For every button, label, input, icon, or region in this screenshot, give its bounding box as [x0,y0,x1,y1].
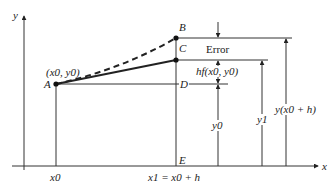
point-C [173,57,178,62]
step-label: hf(x0, y0) [196,66,238,77]
y1-label: y1 [257,114,267,125]
x1-tick-label: x1 = x0 + h [148,172,200,183]
y0-label: y0 [212,120,222,131]
point-D-label: D [179,79,189,90]
point-A [53,81,58,86]
point-A-label: A [44,79,51,90]
point-C-label: C [179,43,186,54]
exact-value-label: y(x0 + h) [275,104,316,115]
point-B-label: B [179,22,186,33]
point-E-label: E [179,155,186,166]
point-B [173,35,178,40]
x0-tick-label: x0 [50,172,60,183]
point-A-coords: (x0, y0) [46,67,80,78]
y-axis-label: y [13,10,18,21]
error-label: Error [206,44,229,55]
diagram-canvas [0,0,331,190]
x-axis-label: x [322,161,327,172]
